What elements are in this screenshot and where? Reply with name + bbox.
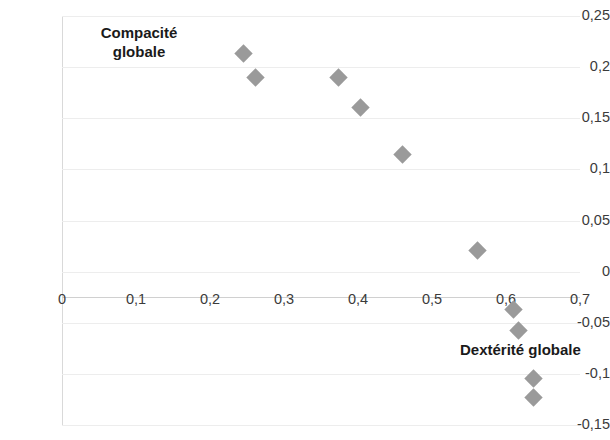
x-axis-tick-label: 0,1 bbox=[116, 292, 156, 307]
y-axis-tick-label: -0,05 bbox=[554, 315, 610, 330]
x-axis-tick-label: 0,6 bbox=[486, 292, 526, 307]
data-point-marker bbox=[234, 45, 252, 63]
gridline-horizontal bbox=[62, 272, 580, 273]
data-point-marker bbox=[247, 68, 265, 86]
data-point-marker bbox=[329, 68, 347, 86]
data-point-marker bbox=[524, 388, 542, 406]
y-axis-tick-label: 0,25 bbox=[554, 8, 610, 23]
gridline-horizontal bbox=[62, 425, 580, 426]
y-axis-title: Compacité globale bbox=[74, 24, 204, 62]
y-axis-tick-label: 0 bbox=[554, 264, 610, 279]
gridline-horizontal bbox=[62, 118, 580, 119]
data-point-marker bbox=[352, 98, 370, 116]
y-axis-title-line2: globale bbox=[74, 43, 204, 62]
data-point-marker bbox=[509, 322, 527, 340]
data-point-marker bbox=[393, 145, 411, 163]
data-point-marker bbox=[468, 241, 486, 259]
gridline-horizontal bbox=[62, 221, 580, 222]
x-axis-tick-label: 0,4 bbox=[338, 292, 378, 307]
y-axis-tick-label: 0,05 bbox=[554, 213, 610, 228]
y-axis-title-line1: Compacité bbox=[74, 24, 204, 43]
x-axis-tick-label: 0,5 bbox=[412, 292, 452, 307]
x-axis-tick-label: 0 bbox=[42, 292, 82, 307]
x-axis-tick-label: 0,2 bbox=[190, 292, 230, 307]
gridline-horizontal bbox=[62, 67, 580, 68]
y-axis-tick-label: -0,15 bbox=[554, 417, 610, 432]
gridline-horizontal bbox=[62, 169, 580, 170]
gridline-horizontal bbox=[62, 374, 580, 375]
gridline-horizontal bbox=[62, 16, 580, 17]
y-axis-tick-label: 0,15 bbox=[554, 110, 610, 125]
x-axis-tick-label: 0,7 bbox=[560, 292, 600, 307]
y-axis-tick-label: 0,2 bbox=[554, 59, 610, 74]
scatter-chart: 0,250,20,150,10,050-0,05-0,1-0,15 00,10,… bbox=[0, 0, 610, 440]
gridline-horizontal bbox=[62, 323, 580, 324]
y-axis-tick-label: -0,1 bbox=[554, 366, 610, 381]
y-axis-tick-label: 0,1 bbox=[554, 161, 610, 176]
x-axis-tick-label: 0,3 bbox=[264, 292, 304, 307]
x-axis-title: Dextérité globale bbox=[460, 341, 581, 359]
data-point-marker bbox=[524, 370, 542, 388]
